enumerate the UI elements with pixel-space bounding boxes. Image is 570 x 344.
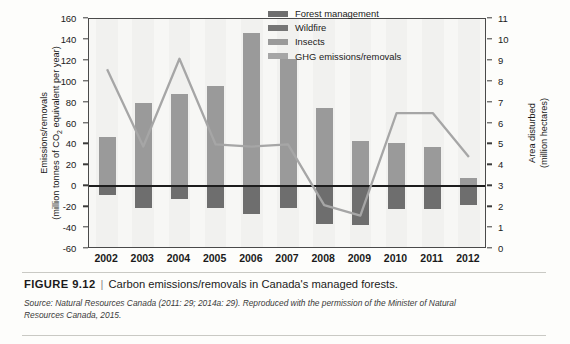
right-axis-tick-label: 2 — [498, 201, 522, 212]
right-axis-label: Area disturbed (million hectares) — [516, 18, 560, 248]
right-axis-tick-mark — [487, 164, 492, 165]
left-axis-tick-label: 0 — [42, 180, 76, 191]
right-axis-tick-label: 11 — [498, 13, 522, 24]
legend-item-label: Insects — [295, 36, 325, 47]
right-axis-tick-mark — [487, 226, 492, 227]
right-axis-label-line2: (million hectares) — [538, 33, 550, 233]
legend: Forest managementWildfireInsectsGHG emis… — [268, 8, 401, 65]
figure-page: Emissions/removals (million tonnes of CO… — [0, 0, 570, 344]
left-axis-label: Emissions/removals (million tonnes of CO… — [14, 18, 54, 248]
right-axis-tick-mark — [487, 80, 492, 81]
right-axis-tick-mark — [487, 247, 492, 248]
legend-item-label: Wildfire — [295, 22, 326, 33]
right-axis-tick-label: 7 — [498, 96, 522, 107]
left-axis-tick-label: -40 — [42, 222, 76, 233]
legend-item-label: GHG emissions/removals — [295, 51, 401, 62]
left-axis-tick-label: 100 — [42, 75, 76, 86]
left-axis-tick-label: 120 — [42, 54, 76, 65]
left-axis-tick-label: 40 — [42, 138, 76, 149]
legend-item: Forest management — [268, 8, 401, 19]
legend-item: Wildfire — [268, 22, 401, 33]
figure-source: Source: Natural Resources Canada (2011: … — [24, 297, 484, 321]
right-axis-tick-mark — [487, 38, 492, 39]
figure-title: Carbon emissions/removals in Canada's ma… — [108, 278, 397, 290]
right-axis-label-line1: Area disturbed — [527, 33, 539, 233]
legend-item: Insects — [268, 36, 401, 47]
right-axis-tick-mark — [487, 101, 492, 102]
right-axis-tick-mark — [487, 122, 492, 123]
right-axis-tick-label: 4 — [498, 159, 522, 170]
right-axis-tick-mark — [487, 17, 492, 18]
left-axis-tick-label: -60 — [42, 243, 76, 254]
caption-block: FIGURE 9.12|Carbon emissions/removals in… — [0, 272, 570, 344]
legend-item-label: Forest management — [295, 8, 379, 19]
right-axis-tick-label: 10 — [498, 33, 522, 44]
legend-swatch-icon — [268, 39, 288, 45]
right-axis-tick-mark — [487, 185, 492, 186]
left-axis-tick-label: 80 — [42, 96, 76, 107]
caption-top-rule — [22, 272, 546, 273]
legend-swatch-icon — [268, 11, 288, 17]
right-axis-tick-label: 3 — [498, 180, 522, 191]
right-axis-tick-label: 6 — [498, 117, 522, 128]
left-axis-tick-label: -20 — [42, 201, 76, 212]
left-axis-tick-label: 140 — [42, 33, 76, 44]
left-axis-tick-label: 60 — [42, 117, 76, 128]
x-axis-tick-label: 2012 — [445, 252, 491, 264]
left-axis-tick-label: 20 — [42, 159, 76, 170]
figure-separator: | — [101, 278, 104, 290]
right-axis-tick-label: 9 — [498, 54, 522, 65]
right-axis-tick-mark — [487, 143, 492, 144]
right-axis-tick-label: 0 — [498, 243, 522, 254]
legend-item: GHG emissions/removals — [268, 51, 401, 62]
right-axis-tick-mark — [487, 59, 492, 60]
legend-swatch-icon — [268, 53, 288, 59]
right-axis-tick-label: 1 — [498, 222, 522, 233]
figure-number: FIGURE 9.12 — [24, 278, 96, 290]
chart-area: Emissions/removals (million tonnes of CO… — [0, 0, 570, 272]
right-axis-tick-label: 5 — [498, 138, 522, 149]
ghg-line-path — [107, 59, 469, 216]
figure-caption-line: FIGURE 9.12|Carbon emissions/removals in… — [24, 278, 398, 290]
right-axis-tick-label: 8 — [498, 75, 522, 86]
right-axis-tick-mark — [487, 205, 492, 206]
legend-swatch-icon — [268, 25, 288, 31]
left-axis-tick-label: 160 — [42, 13, 76, 24]
caption-bottom-rule — [22, 335, 546, 336]
